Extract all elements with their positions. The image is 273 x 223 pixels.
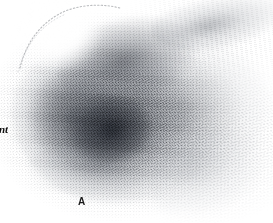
curved-wisp-icon bbox=[16, 2, 136, 82]
specimen-body bbox=[0, 0, 243, 218]
specimen-left-arm bbox=[0, 33, 152, 201]
upper-left-clearing bbox=[2, 0, 118, 87]
speckle-texture-light bbox=[0, 0, 273, 223]
specimen-right-tail bbox=[110, 18, 273, 208]
stipple-grain-upper-right bbox=[0, 0, 273, 223]
stipple-grain-primary bbox=[0, 0, 273, 223]
figure-panel-a: A nt bbox=[0, 0, 273, 223]
stipple-grain-lower-right bbox=[0, 0, 273, 223]
speckle-texture-dark bbox=[0, 0, 273, 223]
stipple-grain-core bbox=[0, 0, 273, 223]
specimen-mass bbox=[0, 0, 273, 223]
specimen-lower-right-sheet bbox=[143, 117, 273, 223]
specimen-upper-tail bbox=[145, 0, 273, 63]
cropped-caption-fragment: nt bbox=[0, 124, 8, 135]
specimen-top-band bbox=[47, 0, 215, 121]
specimen-lower-skirt bbox=[24, 135, 177, 219]
specimen-dense-core-inner bbox=[64, 89, 161, 175]
panel-label-a: A bbox=[78, 197, 85, 207]
specimen-dense-core bbox=[43, 72, 175, 188]
